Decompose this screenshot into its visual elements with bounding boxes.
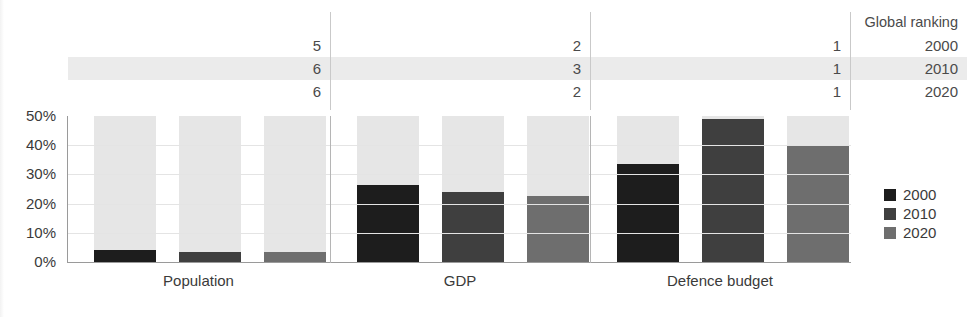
bar-background	[179, 116, 241, 262]
gridline-20	[68, 204, 851, 205]
category-label-gdp: GDP	[330, 272, 590, 289]
bar-value	[617, 164, 679, 262]
group-separator-1	[330, 116, 331, 263]
y-axis-tick-label-30: 30%	[10, 167, 66, 181]
bar-chart: 0%10%20%30%40%50% Population GDP Defence…	[0, 0, 967, 317]
y-axis-tick-label-20: 20%	[10, 197, 66, 211]
legend-item-2000[interactable]: 2000	[884, 186, 964, 204]
bar-background	[264, 116, 326, 262]
plot-area	[67, 116, 851, 263]
gridline-30	[68, 174, 851, 175]
bar-value	[442, 192, 504, 262]
chart-page: Global ranking 5 2 1 2000 6 3 1 2010 6 2…	[0, 0, 967, 317]
legend-item-2010[interactable]: 2010	[884, 205, 964, 223]
legend-swatch-icon	[884, 227, 896, 239]
bar-value	[179, 252, 241, 262]
bar-value	[702, 119, 764, 262]
bar-gdp-2020[interactable]	[527, 116, 589, 262]
bar-gdp-2000[interactable]	[357, 116, 419, 262]
y-axis-tick-label-0: 0%	[10, 255, 66, 269]
y-axis-tick-label-10: 10%	[10, 226, 66, 240]
category-label-defence-budget: Defence budget	[590, 272, 850, 289]
legend: 200020102020	[884, 186, 964, 243]
gridline-10	[68, 233, 851, 234]
bar-value	[94, 250, 156, 262]
group-separator-2	[590, 116, 591, 263]
bar-population-2000[interactable]	[94, 116, 156, 262]
bar-defence-budget-2010[interactable]	[702, 116, 764, 262]
bar-background	[94, 116, 156, 262]
bar-population-2010[interactable]	[179, 116, 241, 262]
y-axis-tick-label-50: 50%	[10, 109, 66, 123]
legend-label: 2020	[903, 224, 936, 242]
legend-swatch-icon	[884, 208, 896, 220]
category-label-population: Population	[67, 272, 330, 289]
bar-series-container	[68, 116, 851, 262]
legend-swatch-icon	[884, 189, 896, 201]
legend-label: 2010	[903, 205, 936, 223]
bar-value	[264, 252, 326, 262]
bar-defence-budget-2000[interactable]	[617, 116, 679, 262]
bar-gdp-2010[interactable]	[442, 116, 504, 262]
bar-value	[527, 196, 589, 262]
bar-population-2020[interactable]	[264, 116, 326, 262]
y-axis: 0%10%20%30%40%50%	[0, 116, 66, 266]
gridline-40	[68, 145, 851, 146]
bar-value	[357, 185, 419, 262]
y-axis-tick-label-40: 40%	[10, 138, 66, 152]
legend-label: 2000	[903, 186, 936, 204]
legend-item-2020[interactable]: 2020	[884, 224, 964, 242]
bar-defence-budget-2020[interactable]	[787, 116, 849, 262]
